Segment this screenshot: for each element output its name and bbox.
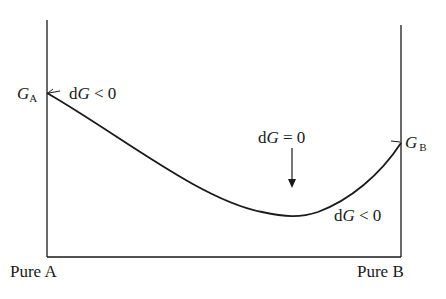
- dg-right-g: G: [343, 206, 355, 225]
- svg-text:GB: GB: [405, 133, 427, 153]
- svg-text:dG < 0: dG < 0: [69, 84, 116, 103]
- gb-subscript: B: [419, 141, 426, 153]
- dg-right-relation: < 0: [355, 206, 382, 225]
- ga-subscript: A: [29, 92, 37, 104]
- svg-text:dG = 0: dG = 0: [258, 128, 305, 147]
- pure-b-label: Pure B: [357, 262, 404, 281]
- gb-label: G: [405, 133, 417, 152]
- gibbs-energy-diagram: GA dG < 0 dG = 0 GB dG < 0 Pure A Pure B: [0, 0, 446, 299]
- gibbs-curve: [47, 93, 401, 216]
- svg-text:GA: GA: [17, 84, 37, 104]
- pure-a-label: Pure A: [10, 262, 57, 281]
- dg-mid-g: G: [267, 128, 279, 147]
- ga-label: G: [17, 84, 29, 103]
- dg-mid-relation: = 0: [279, 128, 306, 147]
- dg-left-relation: < 0: [90, 84, 117, 103]
- dg-left-g: G: [78, 84, 90, 103]
- minimum-arrowhead-icon: [288, 179, 296, 188]
- gb-arrow-icon: [391, 141, 400, 142]
- svg-text:dG < 0: dG < 0: [334, 206, 381, 225]
